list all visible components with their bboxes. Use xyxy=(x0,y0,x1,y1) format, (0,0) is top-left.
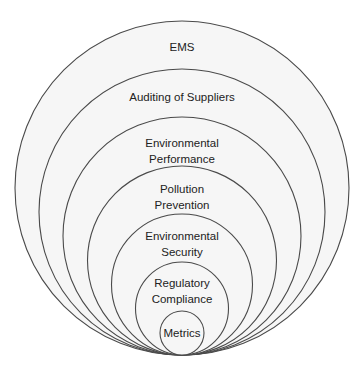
label-regulatory-compliance-line1: Regulatory xyxy=(154,277,210,289)
label-environmental-security-line1: Environmental xyxy=(145,230,219,242)
label-pollution-prevention-line2: Prevention xyxy=(155,199,210,211)
label-ems: EMS xyxy=(170,41,195,53)
label-environmental-performance-line2: Performance xyxy=(149,153,215,165)
label-auditing-of-suppliers: Auditing of Suppliers xyxy=(129,91,235,103)
label-metrics: Metrics xyxy=(163,327,200,339)
label-regulatory-compliance-line2: Compliance xyxy=(152,293,213,305)
label-environmental-performance-line1: Environmental xyxy=(145,137,219,149)
label-pollution-prevention-line1: Pollution xyxy=(160,183,204,195)
nested-circles-diagram: EMS Auditing of Suppliers Environmental … xyxy=(0,0,364,373)
label-environmental-security-line2: Security xyxy=(161,246,203,258)
